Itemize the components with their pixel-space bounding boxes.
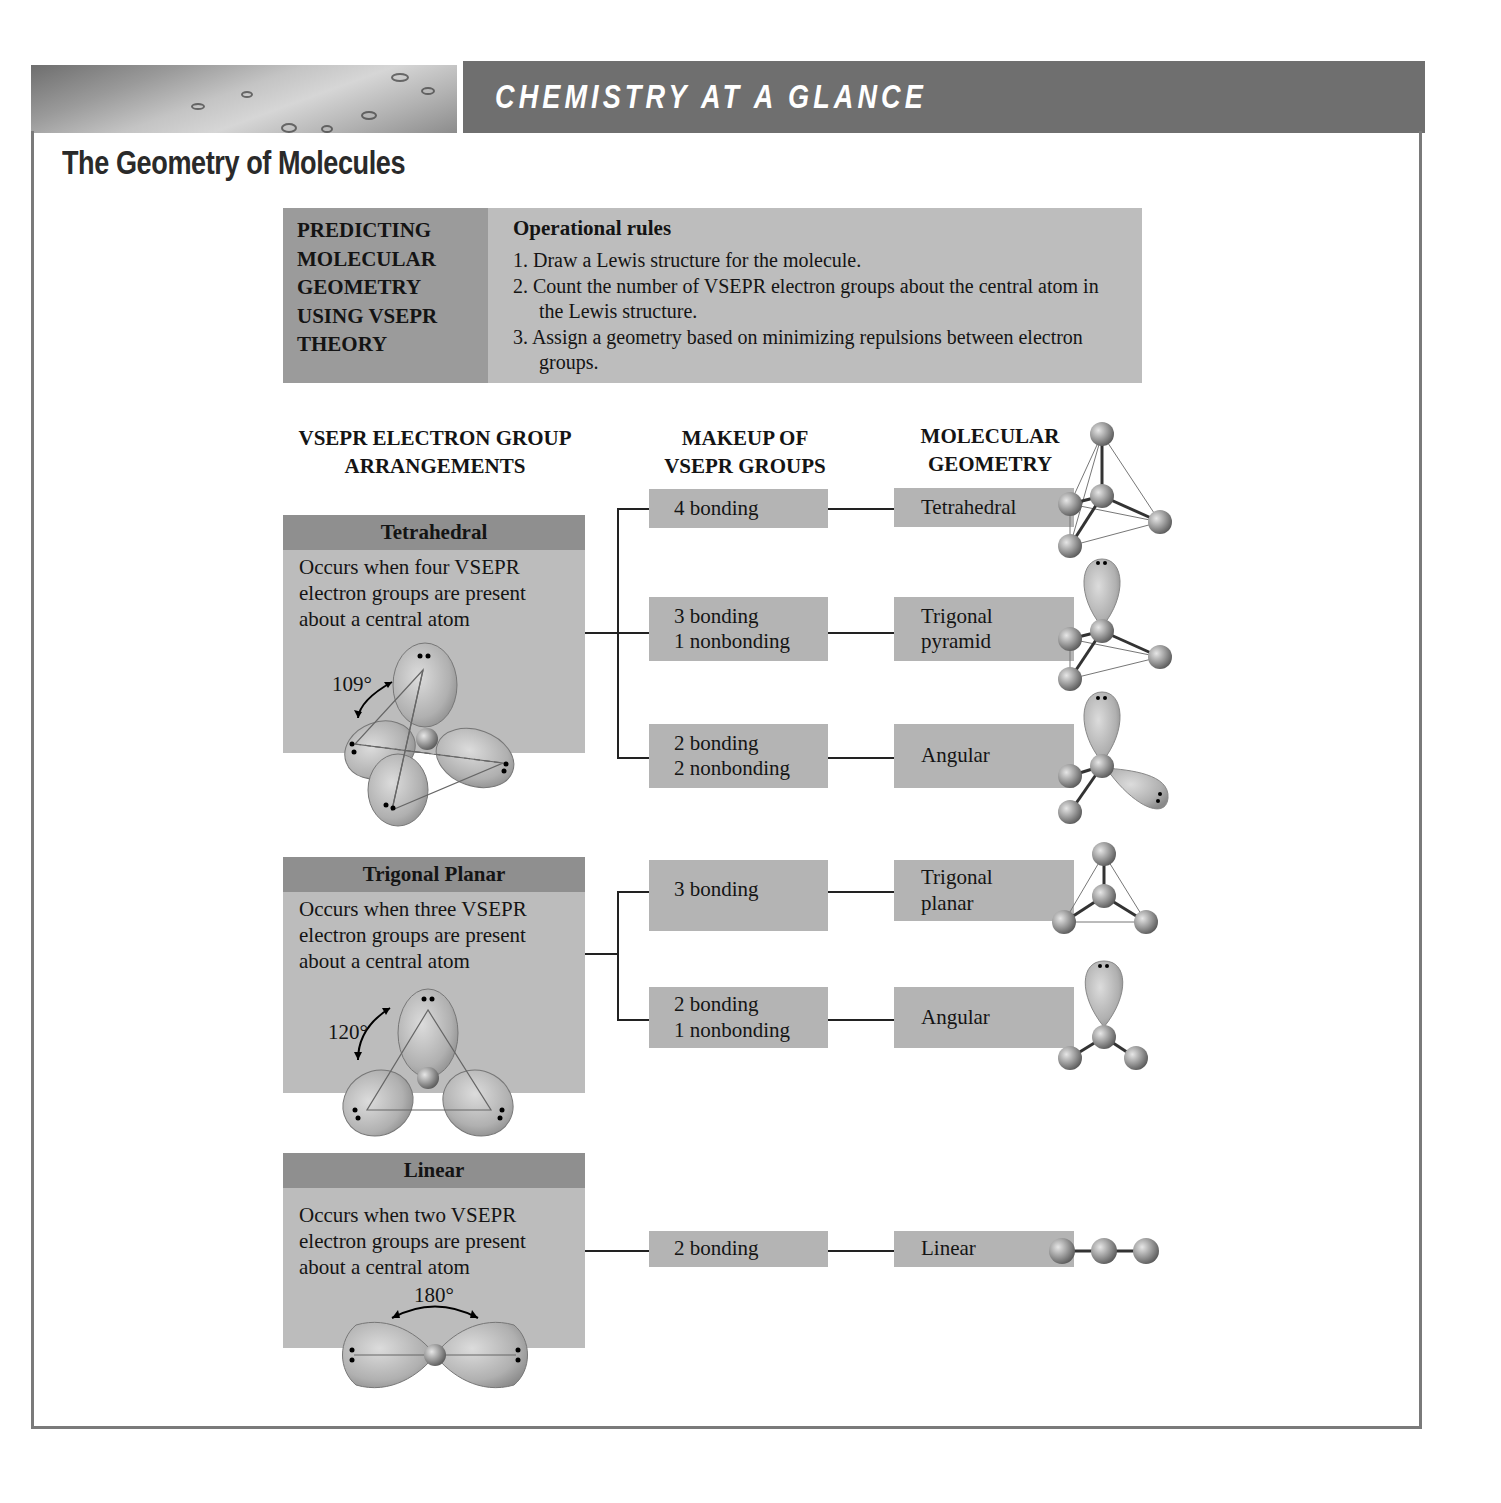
makeup-line: 1 nonbonding — [674, 1018, 828, 1044]
rules-list: 1. Draw a Lewis structure for the molecu… — [513, 248, 1123, 376]
header-line: VSEPR GROUPS — [640, 452, 850, 480]
predicting-heading: PREDICTING MOLECULAR GEOMETRY USING VSEP… — [297, 216, 437, 359]
trigonal-pyramid-molecule-icon — [1050, 555, 1180, 695]
connector-line — [828, 757, 894, 759]
desc-line: Occurs when four VSEPR — [299, 554, 585, 580]
makeup-line: 3 bonding — [674, 877, 828, 903]
tetrahedral-molecule-icon — [1050, 418, 1180, 558]
makeup-line: 2 bonding — [674, 731, 828, 757]
card-title: Trigonal Planar — [283, 857, 585, 892]
geometry-box: Trigonal planar — [894, 860, 1074, 921]
makeup-line: 2 bonding — [674, 992, 828, 1018]
makeup-box: 2 bonding 2 nonbonding — [649, 724, 828, 788]
connector-line — [617, 1019, 649, 1021]
connector-line — [585, 953, 617, 955]
makeup-box: 4 bonding — [649, 489, 828, 528]
linear-molecule-icon — [1046, 1234, 1166, 1268]
connector-line — [585, 632, 617, 634]
angular-bent-molecule-icon — [1048, 955, 1168, 1075]
geometry-box: Angular — [894, 987, 1074, 1048]
desc-line: electron groups are present — [299, 580, 585, 606]
rule-item: 1. Draw a Lewis structure for the molecu… — [513, 248, 1123, 274]
bond-angle-label: 120° — [328, 1020, 368, 1045]
card-title: Tetrahedral — [283, 515, 585, 550]
header-line: MAKEUP OF — [640, 424, 850, 452]
heading-line: MOLECULAR — [297, 245, 437, 274]
connector-line — [828, 632, 894, 634]
bond-angle-label: 109° — [332, 672, 372, 697]
connector-line — [585, 1250, 649, 1252]
connector-line — [617, 891, 619, 1020]
rules-title: Operational rules — [513, 216, 671, 241]
linear-orbital-icon — [340, 1305, 530, 1390]
column-header-makeup: MAKEUP OF VSEPR GROUPS — [640, 424, 850, 480]
desc-line: electron groups are present — [299, 922, 585, 948]
makeup-box: 3 bonding 1 nonbonding — [649, 597, 828, 661]
rule-item: 3. Assign a geometry based on minimizing… — [513, 325, 1123, 376]
card-description: Occurs when four VSEPR electron groups a… — [283, 550, 585, 632]
desc-line: Occurs when three VSEPR — [299, 896, 585, 922]
heading-line: USING VSEPR — [297, 302, 437, 331]
makeup-line: 1 nonbonding — [674, 629, 828, 655]
card-title: Linear — [283, 1153, 585, 1188]
makeup-line: 2 bonding — [674, 1236, 828, 1262]
card-description: Occurs when three VSEPR electron groups … — [283, 892, 585, 974]
desc-line: about a central atom — [299, 606, 585, 632]
rule-item: 2. Count the number of VSEPR electron gr… — [513, 274, 1123, 325]
connector-line — [828, 508, 894, 510]
heading-line: PREDICTING — [297, 216, 437, 245]
connector-line — [617, 508, 649, 510]
connector-line — [617, 757, 649, 759]
desc-line: about a central atom — [299, 948, 585, 974]
angular-bent-molecule-icon — [1050, 690, 1180, 830]
column-header-arrangements: VSEPR ELECTRON GROUP ARRANGEMENTS — [270, 424, 600, 480]
connector-line — [617, 632, 649, 634]
trigonal-planar-molecule-icon — [1048, 840, 1168, 940]
makeup-line: 3 bonding — [674, 604, 828, 630]
geometry-box: Tetrahedral — [894, 488, 1074, 527]
heading-line: GEOMETRY — [297, 273, 437, 302]
page-title: The Geometry of Molecules — [62, 144, 405, 182]
header-line: VSEPR ELECTRON GROUP — [270, 424, 600, 452]
geometry-box: Angular — [894, 724, 1074, 788]
banner-title: CHEMISTRY AT A GLANCE — [495, 78, 927, 116]
tetrahedral-orbital-icon — [330, 640, 530, 830]
card-description: Occurs when two VSEPR electron groups ar… — [283, 1188, 585, 1280]
trigonal-planar-orbital-icon — [340, 988, 520, 1138]
makeup-line: 2 nonbonding — [674, 756, 828, 782]
connector-line — [828, 1019, 894, 1021]
makeup-box: 2 bonding 1 nonbonding — [649, 987, 828, 1048]
makeup-line: 4 bonding — [674, 496, 828, 522]
connector-line — [828, 1250, 894, 1252]
desc-line: Occurs when two VSEPR — [299, 1202, 585, 1228]
desc-line: about a central atom — [299, 1254, 585, 1280]
makeup-box: 3 bonding — [649, 860, 828, 931]
banner-photo — [31, 65, 457, 133]
heading-line: THEORY — [297, 330, 437, 359]
connector-line — [828, 891, 894, 893]
makeup-box: 2 bonding — [649, 1231, 828, 1267]
connector-line — [617, 891, 649, 893]
desc-line: electron groups are present — [299, 1228, 585, 1254]
header-line: ARRANGEMENTS — [270, 452, 600, 480]
geometry-box: Trigonal pyramid — [894, 597, 1074, 661]
